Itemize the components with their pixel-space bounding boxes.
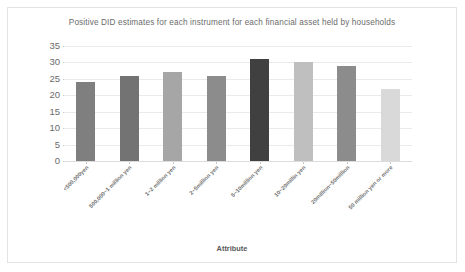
x-axis-tick-mark: [216, 162, 217, 164]
y-axis-tick-label: 0: [55, 156, 60, 166]
y-axis-tick-label: 5: [55, 140, 60, 150]
x-axis-tick-labels: <500,000yen500,000~1 million yen1~2 mill…: [64, 162, 412, 240]
y-axis-tick-labels: 05101520253035: [38, 46, 60, 161]
bar: [120, 76, 139, 161]
x-axis-tick-mark: [129, 162, 130, 164]
bar: [163, 72, 182, 161]
y-axis-tick-label: 25: [49, 74, 60, 84]
bar-slot: [238, 46, 282, 161]
x-axis-tick-mark: [173, 162, 174, 164]
x-axis-slot: 2~5million yen: [195, 162, 239, 240]
bar: [294, 62, 313, 161]
chart-container: Positive DID estimates for each instrume…: [7, 7, 457, 263]
bar-slot: [195, 46, 239, 161]
x-axis-title: Attribute: [8, 244, 456, 253]
x-axis-tick-mark: [390, 162, 391, 164]
bar-slot: [369, 46, 413, 161]
chart-title: Positive DID estimates for each instrume…: [8, 18, 456, 27]
x-axis-slot: 500,000~1 million yen: [108, 162, 152, 240]
bar: [76, 82, 95, 161]
y-axis-tick-label: 10: [49, 123, 60, 133]
y-axis-tick-label: 20: [49, 91, 60, 101]
x-axis-slot: <500,000yen: [64, 162, 108, 240]
x-axis-tick-mark: [86, 162, 87, 164]
y-axis-tick-label: 30: [49, 58, 60, 68]
x-axis-tick-label: <500,000yen: [62, 165, 89, 192]
bar: [207, 76, 226, 161]
bar: [250, 59, 269, 161]
y-axis-tick-label: 15: [49, 107, 60, 117]
bar-slot: [151, 46, 195, 161]
y-axis-tick-label: 35: [49, 41, 60, 51]
y-axis-title: Number of commodities showing positive D…: [0, 43, 4, 158]
bar: [381, 89, 400, 161]
bar: [337, 66, 356, 161]
x-axis-slot: 1~2 million yen: [151, 162, 195, 240]
x-axis-slot: 5~10million yen: [238, 162, 282, 240]
bar-series: [64, 46, 412, 161]
x-axis-slot: 20million~50million: [325, 162, 369, 240]
plot-area: [64, 46, 412, 161]
x-axis-slot: 50 million yen or more: [369, 162, 413, 240]
bar-slot: [282, 46, 326, 161]
x-axis-tick-mark: [303, 162, 304, 164]
x-axis-tick-label: 2~5million yen: [189, 165, 220, 196]
bar-slot: [108, 46, 152, 161]
bar-slot: [325, 46, 369, 161]
bar-slot: [64, 46, 108, 161]
